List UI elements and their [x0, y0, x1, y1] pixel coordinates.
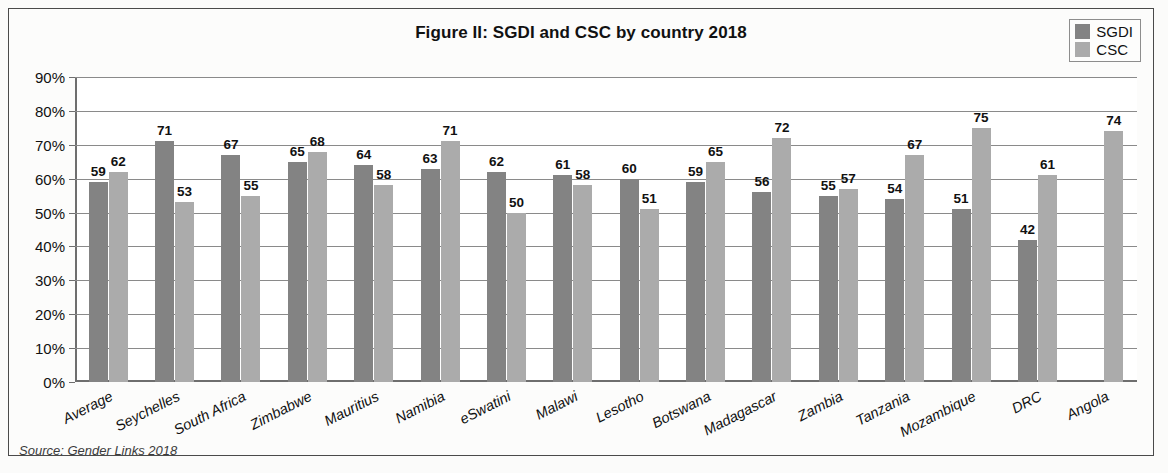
bar-groups: 5962715367556568645863716250615860515965…: [75, 77, 1137, 382]
bar-csc-namibia[interactable]: 71: [441, 141, 460, 382]
bar-sgdi-namibia[interactable]: 63: [421, 169, 440, 383]
y-axis-tick-label: 10%: [9, 340, 65, 357]
bar-value-label: 58: [575, 167, 590, 182]
legend-item-csc: CSC: [1075, 42, 1133, 57]
bar-csc-malawi[interactable]: 58: [573, 185, 592, 382]
bar-value-label: 57: [841, 171, 856, 186]
bar-value-label: 50: [509, 195, 524, 210]
chart-legend: SGDI CSC: [1069, 19, 1141, 62]
bar-csc-zambia[interactable]: 57: [839, 189, 858, 382]
figure-container: Figure II: SGDI and CSC by country 2018 …: [8, 8, 1154, 456]
x-axis-label-lesotho: Lesotho: [593, 388, 646, 426]
bar-group: 5962: [75, 77, 141, 382]
bar-csc-seychelles[interactable]: 53: [175, 202, 194, 382]
bar-group: 5557: [805, 77, 871, 382]
x-axis-label-seychelles: Seychelles: [112, 388, 182, 434]
bar-sgdi-eswatini[interactable]: 62: [487, 172, 506, 382]
legend-item-sgdi: SGDI: [1075, 24, 1133, 39]
bar-value-label: 71: [157, 123, 172, 138]
bar-group: 5672: [739, 77, 805, 382]
bar-csc-tanzania[interactable]: 67: [905, 155, 924, 382]
bar-value-label: 74: [1106, 113, 1121, 128]
x-axis-label-mauritius: Mauritius: [321, 388, 381, 429]
bar-csc-madagascar[interactable]: 72: [772, 138, 791, 382]
chart-title: Figure II: SGDI and CSC by country 2018: [9, 23, 1153, 43]
bar-value-label: 54: [887, 181, 902, 196]
bar-group: 6250: [473, 77, 539, 382]
legend-swatch-csc: [1075, 42, 1090, 57]
bar-value-label: 59: [91, 164, 106, 179]
bar-sgdi-seychelles[interactable]: 71: [155, 141, 174, 382]
bar-value-label: 63: [423, 151, 438, 166]
x-axis-label-zambia: Zambia: [795, 388, 845, 424]
bar-group: 6371: [407, 77, 473, 382]
bar-value-label: 65: [290, 144, 305, 159]
bar-csc-average[interactable]: 62: [109, 172, 128, 382]
bar-sgdi-zimbabwe[interactable]: 65: [288, 162, 307, 382]
bar-group: 6158: [540, 77, 606, 382]
x-axis-label-south-africa: South Africa: [171, 388, 248, 438]
bar-value-label: 59: [688, 164, 703, 179]
y-axis-tick-label: 70%: [9, 136, 65, 153]
bar-sgdi-lesotho[interactable]: 60: [620, 179, 639, 382]
legend-label-sgdi: SGDI: [1096, 24, 1133, 39]
bar-csc-lesotho[interactable]: 51: [640, 209, 659, 382]
y-axis-tick-label: 20%: [9, 306, 65, 323]
y-axis-tick-label: 0%: [9, 374, 65, 391]
bar-sgdi-drc[interactable]: 42: [1018, 240, 1037, 382]
bar-csc-mauritius[interactable]: 58: [374, 185, 393, 382]
bar-group: 6051: [606, 77, 672, 382]
bar-value-label: 68: [310, 134, 325, 149]
bar-value-label: 53: [177, 184, 192, 199]
x-axis-label-madagascar: Madagascar: [701, 388, 779, 438]
bar-value-label: 55: [821, 178, 836, 193]
bar-value-label: 67: [223, 137, 238, 152]
bar-value-label: 51: [642, 191, 657, 206]
bar-value-label: 72: [774, 120, 789, 135]
bar-group: 74: [1071, 77, 1137, 382]
y-axis-tick-label: 90%: [9, 69, 65, 86]
bar-sgdi-average[interactable]: 59: [89, 182, 108, 382]
bar-sgdi-tanzania[interactable]: 54: [885, 199, 904, 382]
y-axis-tick-label: 50%: [9, 204, 65, 221]
bar-group: 6458: [341, 77, 407, 382]
bar-csc-drc[interactable]: 61: [1038, 175, 1057, 382]
bar-value-label: 55: [243, 178, 258, 193]
x-axis-label-namibia: Namibia: [393, 388, 448, 426]
bar-sgdi-madagascar[interactable]: 56: [752, 192, 771, 382]
bar-sgdi-malawi[interactable]: 61: [553, 175, 572, 382]
bar-group: 5175: [938, 77, 1004, 382]
plot-area: 90%80%70%60%50%40%30%20%10%0% 5962715367…: [75, 77, 1137, 382]
x-axis-label-eswatini: eSwatini: [458, 388, 514, 427]
bar-csc-eswatini[interactable]: 50: [507, 213, 526, 382]
bar-group: 6568: [274, 77, 340, 382]
source-note: Source: Gender Links 2018: [19, 443, 177, 458]
bar-sgdi-south-africa[interactable]: 67: [221, 155, 240, 382]
bar-csc-zimbabwe[interactable]: 68: [308, 152, 327, 382]
bar-value-label: 67: [907, 137, 922, 152]
legend-swatch-sgdi: [1075, 24, 1090, 39]
bar-value-label: 56: [754, 174, 769, 189]
x-axis-labels: AverageSeychellesSouth AfricaZimbabweMau…: [75, 384, 1137, 462]
bar-value-label: 62: [489, 154, 504, 169]
y-axis-tick-label: 80%: [9, 102, 65, 119]
bar-value-label: 65: [708, 144, 723, 159]
bar-csc-south-africa[interactable]: 55: [241, 196, 260, 382]
bar-group: 5965: [672, 77, 738, 382]
bar-sgdi-mauritius[interactable]: 64: [354, 165, 373, 382]
bar-csc-mozambique[interactable]: 75: [972, 128, 991, 382]
bar-value-label: 61: [555, 157, 570, 172]
bar-value-label: 62: [111, 154, 126, 169]
bar-value-label: 60: [622, 161, 637, 176]
bar-csc-angola[interactable]: 74: [1104, 131, 1123, 382]
bar-sgdi-zambia[interactable]: 55: [819, 196, 838, 382]
bar-value-label: 64: [356, 147, 371, 162]
bar-value-label: 42: [1020, 222, 1035, 237]
bar-sgdi-botswana[interactable]: 59: [686, 182, 705, 382]
x-axis-label-average: Average: [60, 388, 115, 427]
bar-value-label: 71: [443, 123, 458, 138]
y-axis-tick-label: 30%: [9, 272, 65, 289]
y-axis-tick-mark: [69, 382, 75, 383]
bar-sgdi-mozambique[interactable]: 51: [952, 209, 971, 382]
bar-csc-botswana[interactable]: 65: [706, 162, 725, 382]
